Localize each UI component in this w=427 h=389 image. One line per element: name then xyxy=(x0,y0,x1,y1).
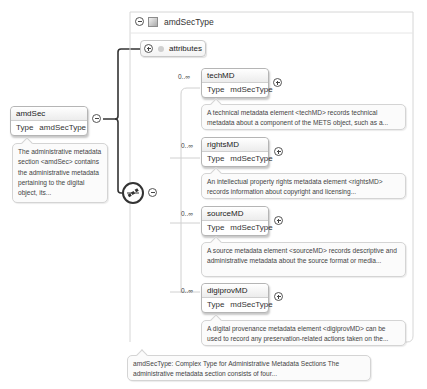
rightsMD-documentation: An intellectual property rights metadata… xyxy=(201,173,406,199)
attributes-label: attributes xyxy=(169,44,202,53)
root-element-box[interactable]: amdSec TypeamdSecType xyxy=(10,106,88,136)
element-type: TypemdSecType xyxy=(202,221,268,235)
root-element-type: TypeamdSecType xyxy=(11,121,87,135)
cardinality: 0..∞ xyxy=(181,210,193,217)
cardinality: 0..∞ xyxy=(178,73,190,80)
cardinality: 0..∞ xyxy=(181,142,193,149)
techMD-documentation: A technical metadata element <techMD> re… xyxy=(201,104,406,130)
techMD-expand-icon[interactable] xyxy=(273,78,282,87)
root-documentation: The administrative metadata section <amd… xyxy=(12,143,108,203)
sourceMD-expand-icon[interactable] xyxy=(274,216,283,225)
rightsMD-expand-icon[interactable] xyxy=(274,147,283,156)
sequence-collapse-icon[interactable] xyxy=(148,188,157,197)
sequence-compositor-icon[interactable] xyxy=(122,182,144,204)
element-techMD[interactable]: techMD TypemdSecType xyxy=(201,68,269,98)
sourceMD-documentation: A source metadata element <sourceMD> rec… xyxy=(201,242,406,277)
element-name: digiprovMD xyxy=(202,284,268,298)
digiprovMD-expand-icon[interactable] xyxy=(274,292,283,301)
type-label: Type xyxy=(16,123,33,132)
complex-type-name: amdSecType xyxy=(164,17,214,27)
complex-type-documentation: amdSecType: Complex Type for Administrat… xyxy=(127,355,371,381)
element-type: TypemdSecType xyxy=(202,83,268,97)
element-name: sourceMD xyxy=(202,207,268,221)
root-element-name: amdSec xyxy=(11,107,87,121)
attribute-icon xyxy=(158,46,164,52)
element-sourceMD[interactable]: sourceMD TypemdSecType xyxy=(201,206,269,236)
element-type: TypemdSecType xyxy=(202,152,268,166)
root-collapse-icon[interactable] xyxy=(92,114,101,123)
digiprovMD-documentation: A digital provenance metadata element <d… xyxy=(201,320,406,346)
cardinality: 0..∞ xyxy=(181,287,193,294)
attributes-box[interactable]: attributes xyxy=(140,40,206,57)
element-digiprovMD[interactable]: digiprovMD TypemdSecType xyxy=(201,283,269,313)
type-collapse-icon[interactable] xyxy=(135,17,144,26)
attributes-expand-icon[interactable] xyxy=(144,44,153,53)
element-name: rightsMD xyxy=(202,138,268,152)
type-value: amdSecType xyxy=(39,123,86,132)
element-rightsMD[interactable]: rightsMD TypemdSecType xyxy=(201,137,269,167)
complex-type-icon xyxy=(148,17,158,27)
element-type: TypemdSecType xyxy=(202,298,268,312)
element-name: techMD xyxy=(202,69,268,83)
